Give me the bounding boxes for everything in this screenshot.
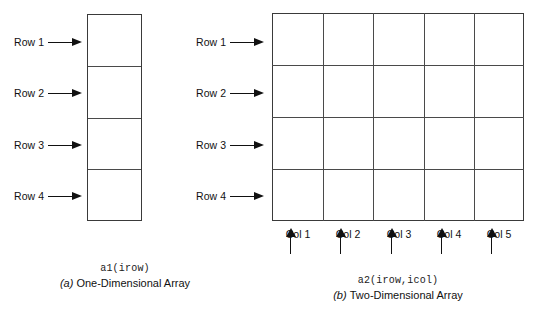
- arrow-right-icon: [230, 37, 264, 47]
- arrow-right-icon: [230, 88, 264, 98]
- panel-two-dimensional-array: Row 1 Row 2 Row 3 Row 4: [0, 0, 544, 316]
- col-label-3: Col 3: [376, 228, 422, 240]
- col-label-5: Col 5: [476, 228, 522, 240]
- row-label-text: Row 2: [196, 86, 226, 100]
- grid-divider-horizontal: [272, 117, 524, 118]
- arrow-right-icon: [230, 140, 264, 150]
- col-label-4: Col 4: [426, 228, 472, 240]
- grid-divider-horizontal: [272, 65, 524, 66]
- row-label-4: Row 4: [196, 188, 264, 202]
- row-label-3: Row 3: [196, 137, 264, 151]
- row-label-1: Row 1: [196, 34, 264, 48]
- caption-text-b: (b) Two-Dimensional Array: [272, 289, 524, 301]
- array-figure: Row 1 Row 2 Row 3 Row 4 a1(irow) (: [0, 0, 544, 316]
- row-label-text: Row 1: [196, 35, 226, 49]
- col-label-2: Col 2: [325, 228, 371, 240]
- arrow-right-icon: [230, 191, 264, 201]
- caption-two-dimensional: a2(irow,icol) (b) Two-Dimensional Array: [272, 275, 524, 301]
- two-dimensional-array-grid: [272, 13, 524, 221]
- row-label-text: Row 3: [196, 138, 226, 152]
- caption-tag-b: (b): [333, 289, 346, 301]
- col-label-1: Col 1: [275, 228, 321, 240]
- row-label-2: Row 2: [196, 85, 264, 99]
- caption-label-b: Two-Dimensional Array: [350, 289, 463, 301]
- row-label-text: Row 4: [196, 189, 226, 203]
- caption-code-a2: a2(irow,icol): [272, 275, 524, 286]
- grid-divider-horizontal: [272, 169, 524, 170]
